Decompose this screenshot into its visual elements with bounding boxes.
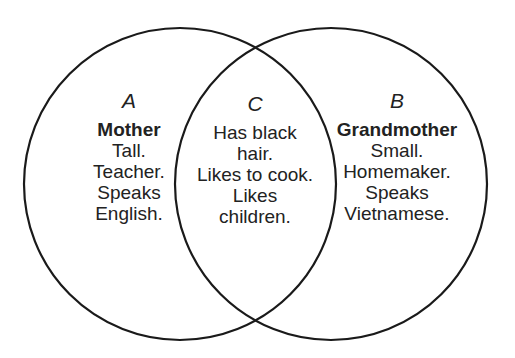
region-b-line: Homemaker. [322,161,472,182]
region-c-line: children. [180,206,330,227]
region-b-title: Grandmother [322,119,472,140]
region-a-mother: A Mother Tall. Teacher. Speaks English. [64,90,194,224]
region-a-line: English. [64,203,194,224]
region-a-title: Mother [64,119,194,140]
region-c-line: Has black [180,122,330,143]
region-c-line: hair. [180,143,330,164]
region-a-line: Speaks [64,182,194,203]
region-b-grandmother: B Grandmother Small. Homemaker. Speaks V… [322,90,472,224]
region-c-line: Likes to cook. [180,164,330,185]
region-c-line: Likes [180,185,330,206]
region-a-line: Tall. [64,140,194,161]
region-b-letter: B [322,90,472,111]
region-b-line: Small. [322,140,472,161]
region-c-shared: C Has black hair. Likes to cook. Likes c… [180,93,330,227]
region-b-line: Vietnamese. [322,203,472,224]
region-a-letter: A [64,90,194,111]
region-a-line: Teacher. [64,161,194,182]
region-b-line: Speaks [322,182,472,203]
region-c-letter: C [180,93,330,114]
